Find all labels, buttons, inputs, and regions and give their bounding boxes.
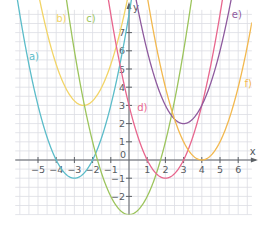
y-tick-label: −1 — [111, 173, 125, 184]
curve-label-f: f) — [245, 78, 253, 89]
curve-label-b: b) — [56, 13, 66, 24]
grid — [15, 10, 252, 215]
curve-label-a: a) — [29, 51, 39, 62]
y-tick-label: 3 — [119, 100, 125, 111]
x-tick-label: −5 — [31, 164, 45, 175]
curve-label-e: e) — [232, 9, 242, 20]
curve-d — [15, 0, 252, 178]
curve-a — [15, 0, 252, 178]
curve-label-c: c) — [86, 13, 95, 24]
y-tick-label: 1 — [119, 136, 125, 147]
curve-label-d: d) — [137, 102, 147, 113]
origin-label: 0 — [120, 149, 126, 160]
curve-f — [15, 0, 252, 160]
x-tick-label: 2 — [162, 164, 168, 175]
parabola-chart: x y 0 −5−4−3−2−1123456 −2−11234567 a)b)c… — [0, 0, 268, 227]
y-tick-label: 2 — [119, 118, 125, 129]
curve-b — [15, 0, 252, 105]
x-tick-label: 1 — [144, 164, 150, 175]
x-tick-label: 3 — [181, 164, 187, 175]
x-tick-label: 4 — [199, 164, 205, 175]
x-axis-arrow-icon — [251, 158, 258, 163]
x-tick-label: 6 — [235, 164, 241, 175]
x-tick-label: −3 — [67, 164, 81, 175]
curves — [15, 0, 252, 215]
x-axis-label: x — [250, 146, 256, 157]
x-tick-label: 5 — [217, 164, 223, 175]
